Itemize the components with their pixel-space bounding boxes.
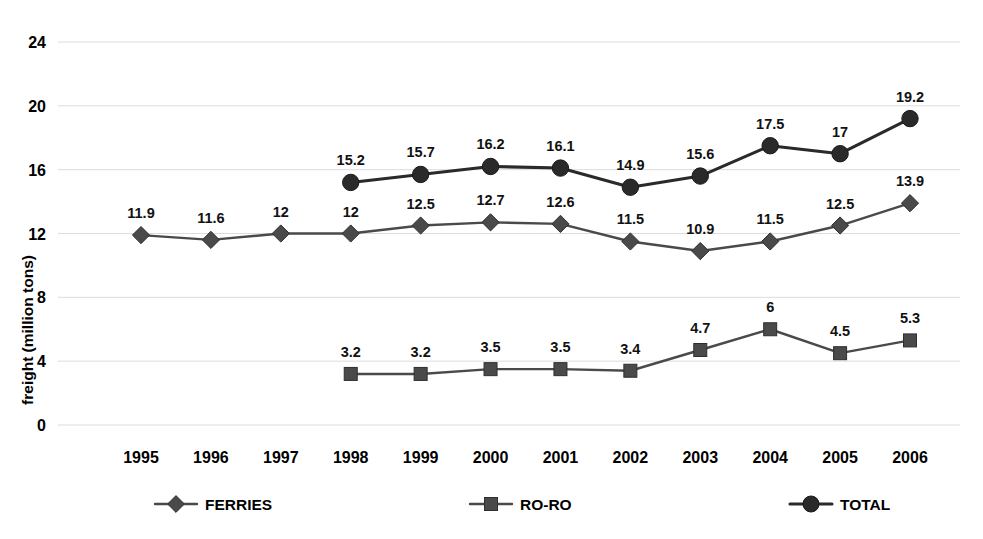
series-lines-group [141,119,910,374]
data-label-total-1998: 15.2 [337,152,365,168]
data-label-ferries-1996: 11.6 [197,210,224,226]
data-label-ro-ro-2005: 4.5 [830,323,850,339]
data-label-total-2000: 16.2 [476,136,504,152]
data-point-ferries-1999 [412,217,429,234]
data-point-total-1998 [343,174,359,190]
data-point-ro-ro-2001 [554,363,567,376]
data-label-ferries-1998: 12 [343,204,359,220]
data-point-total-1999 [412,166,428,182]
data-point-total-2006 [902,110,918,126]
chart-canvas: 04812162024 1995199619971998199920002001… [0,0,983,539]
data-label-total-2001: 16.1 [546,138,574,154]
data-label-total-2002: 14.9 [616,157,644,173]
legend-label-total: TOTAL [840,496,890,513]
data-point-ro-ro-2003 [694,343,707,356]
data-point-ferries-2000 [482,214,499,231]
y-tick-label-4: 4 [37,353,46,370]
legend-label-ro-ro: RO-RO [520,496,572,513]
data-label-ferries-2003: 10.9 [686,221,714,237]
data-point-total-2005 [832,146,848,162]
x-tick-label-2005: 2005 [822,449,858,466]
x-tick-label-1998: 1998 [333,449,369,466]
data-point-ro-ro-1998 [344,367,357,380]
y-tick-label-8: 8 [37,289,46,306]
y-tick-label-12: 12 [28,226,46,243]
data-label-ro-ro-2002: 3.4 [620,341,640,357]
x-tick-label-2004: 2004 [752,449,788,466]
data-label-ro-ro-1999: 3.2 [411,344,431,360]
data-label-total-2004: 17.5 [756,116,784,132]
data-point-ro-ro-2002 [624,364,637,377]
data-point-ro-ro-2000 [484,363,497,376]
y-axis-title: freight (million tons) [19,255,36,405]
data-point-total-2001 [552,160,568,176]
data-point-ro-ro-2004 [764,323,777,336]
data-label-ro-ro-2004: 6 [766,299,774,315]
x-tick-label-1999: 1999 [403,449,439,466]
x-tick-label-2001: 2001 [543,449,579,466]
freight-line-chart: 04812162024 1995199619971998199920002001… [0,0,983,539]
x-tick-label-1997: 1997 [263,449,299,466]
legend-diamond-marker-icon [168,496,185,513]
y-tick-label-16: 16 [28,162,46,179]
data-point-total-2004 [762,138,778,154]
x-tick-label-1995: 1995 [123,449,159,466]
data-label-ferries-1999: 12.5 [407,196,435,212]
data-point-total-2000 [482,158,498,174]
data-label-total-2006: 19.2 [896,89,924,105]
data-label-ferries-2001: 12.6 [546,194,574,210]
data-label-total-1999: 15.7 [407,144,435,160]
data-point-ferries-2005 [831,217,848,234]
data-label-ro-ro-1998: 3.2 [341,344,361,360]
data-point-ferries-1997 [272,225,289,242]
data-point-ro-ro-2006 [904,334,917,347]
x-tick-label-2000: 2000 [473,449,509,466]
data-label-ferries-2000: 12.7 [476,192,504,208]
data-point-ro-ro-1999 [414,367,427,380]
chart-legend: FERRIESRO-ROTOTAL [155,496,890,513]
data-label-ro-ro-2000: 3.5 [480,339,500,355]
legend-label-ferries: FERRIES [205,496,272,513]
series-line-ferries [141,203,910,251]
data-label-ferries-2004: 11.5 [756,211,783,227]
y-tick-label-20: 20 [28,98,46,115]
data-label-ferries-1995: 11.9 [127,205,154,221]
gridlines-group [58,42,960,425]
x-tick-label-2003: 2003 [682,449,718,466]
data-point-ferries-1998 [342,225,359,242]
data-point-ferries-2003 [692,242,709,259]
data-label-ro-ro-2003: 4.7 [690,320,710,336]
data-label-ro-ro-2001: 3.5 [550,339,570,355]
x-tick-label-2006: 2006 [892,449,928,466]
legend-square-marker-icon [485,498,498,511]
data-point-ferries-2006 [901,195,918,212]
data-label-ferries-1997: 12 [273,204,289,220]
legend-circle-marker-icon [803,496,819,512]
data-label-ferries-2002: 11.5 [617,211,644,227]
data-point-ferries-2002 [622,233,639,250]
data-point-total-2002 [622,179,638,195]
data-label-total-2005: 17 [832,124,848,140]
y-tick-label-0: 0 [37,417,46,434]
data-point-ro-ro-2005 [834,347,847,360]
data-point-ferries-1995 [132,226,149,243]
data-point-ferries-2004 [762,233,779,250]
data-label-ferries-2005: 12.5 [826,196,854,212]
x-tick-label-1996: 1996 [193,449,229,466]
x-tick-label-2002: 2002 [613,449,649,466]
data-point-total-2003 [692,168,708,184]
x-axis-category-labels: 1995199619971998199920002001200220032004… [123,449,928,466]
data-label-ro-ro-2006: 5.3 [900,310,920,326]
y-tick-label-24: 24 [28,34,46,51]
data-point-ferries-2001 [552,215,569,232]
data-label-ferries-2006: 13.9 [896,173,924,189]
data-label-total-2003: 15.6 [686,146,714,162]
